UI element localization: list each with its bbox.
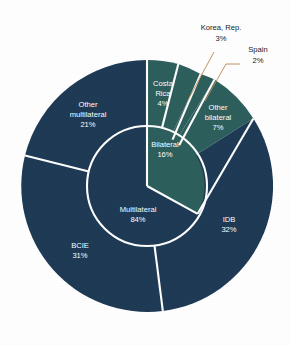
label-idb-name: IDB	[223, 215, 236, 224]
label-other-multilateral-line1: Other	[79, 100, 98, 109]
label-other-multilateral-line2: multilateral	[70, 110, 107, 119]
label-costa-rica-line2: Rica	[155, 89, 171, 98]
label-multilateral-name: Multilateral	[120, 205, 157, 214]
label-bcie-value: 31%	[72, 251, 87, 260]
callout-spain-value: 2%	[253, 56, 264, 65]
label-other-bilateral-line2: bilateral	[205, 113, 232, 122]
label-costa-rica-line1: Costa	[153, 79, 174, 88]
callout-spain-name: Spain	[248, 45, 267, 54]
label-costa-rica-value: 4%	[158, 99, 169, 108]
label-bcie-name: BCIE	[71, 241, 89, 250]
label-bilateral-name: Bilateral	[151, 140, 179, 149]
callout-korea-value: 3%	[216, 34, 227, 43]
label-idb-value: 32%	[221, 225, 236, 234]
chart-container: Costa Rica 4% Other bilateral 7% Other m…	[0, 0, 291, 345]
label-other-bilateral-value: 7%	[213, 123, 224, 132]
label-multilateral-value: 84%	[130, 215, 145, 224]
nested-pie-chart: Costa Rica 4% Other bilateral 7% Other m…	[0, 0, 291, 345]
label-other-bilateral-line1: Other	[209, 103, 228, 112]
callout-korea-name: Korea, Rep.	[201, 23, 242, 32]
label-other-multilateral-value: 21%	[80, 120, 95, 129]
label-bilateral-value: 16%	[157, 150, 172, 159]
